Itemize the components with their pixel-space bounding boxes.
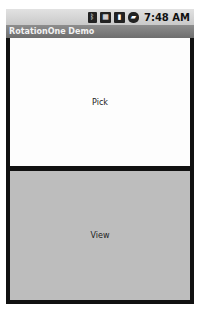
status-bar: ᛒ ▦ ▮ ▰ 7:48 AM xyxy=(6,9,194,25)
status-time: 7:48 AM xyxy=(144,12,190,23)
network-3g-icon: ▦ xyxy=(100,12,111,23)
device-screen: ᛒ ▦ ▮ ▰ 7:48 AM RotationOne Demo Pick Vi… xyxy=(6,9,194,304)
bluetooth-icon: ᛒ xyxy=(88,12,97,23)
battery-icon: ▰ xyxy=(128,12,139,23)
view-button[interactable]: View xyxy=(10,171,190,300)
signal-icon: ▮ xyxy=(114,12,125,23)
pick-button[interactable]: Pick xyxy=(10,38,190,166)
app-title-bar: RotationOne Demo xyxy=(6,25,194,38)
